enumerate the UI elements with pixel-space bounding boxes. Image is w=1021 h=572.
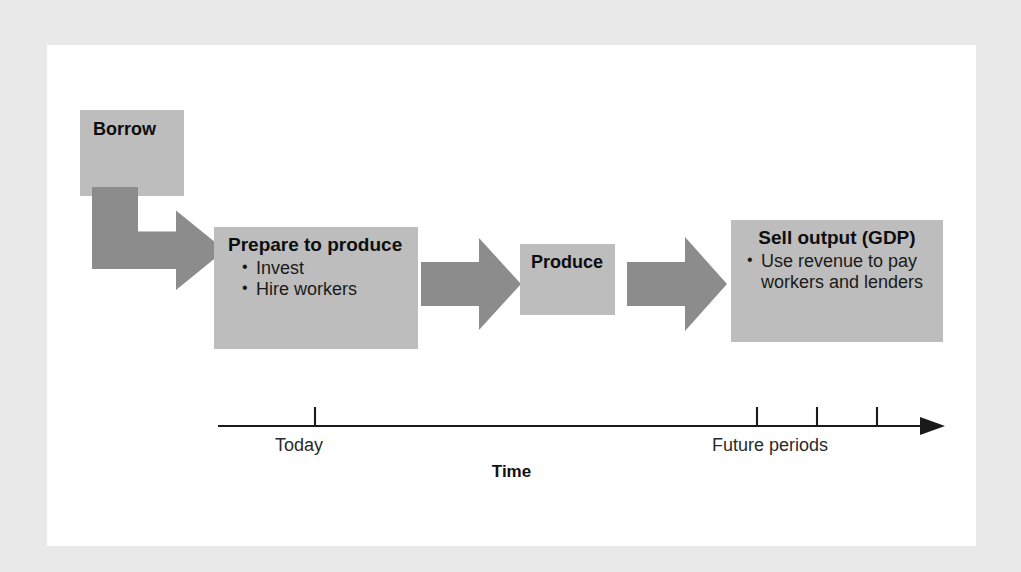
diagram-canvas: Borrow Prepare to produce • Invest • Hir…: [47, 45, 976, 546]
timeline-axis-title: Time: [47, 462, 976, 482]
figure-root: Borrow Prepare to produce • Invest • Hir…: [0, 0, 1021, 572]
timeline-label-future-periods: Future periods: [712, 435, 828, 456]
timeline-label-today: Today: [275, 435, 323, 456]
timeline-arrowhead: [920, 417, 945, 435]
